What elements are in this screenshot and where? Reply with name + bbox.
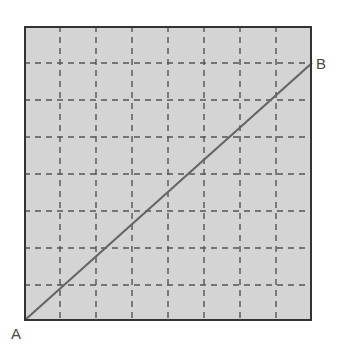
figure-container: A B xyxy=(0,0,340,353)
vertex-label-b: B xyxy=(316,56,326,71)
vertex-label-a: A xyxy=(11,326,21,341)
grid-diagram-svg xyxy=(0,0,340,353)
